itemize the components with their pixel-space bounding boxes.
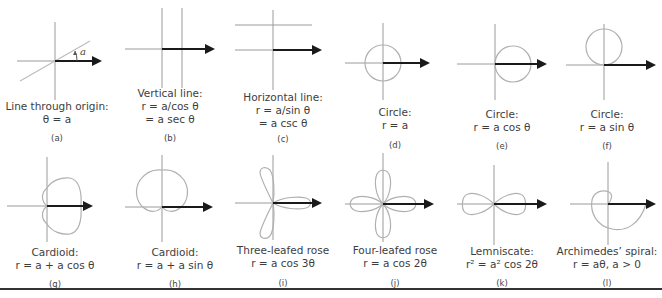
circle-cos-graph [447, 0, 557, 100]
vertical-line-graph [115, 0, 225, 100]
svg-text:a: a [80, 46, 86, 57]
archimedes-spiral-graph [552, 150, 662, 250]
line-through-origin-graph: a [2, 0, 112, 100]
cardioid-cos-graph [0, 150, 110, 250]
circle-r-a-graph [340, 0, 450, 100]
caption: Cardioid: r = a + a cos θ [0, 246, 120, 272]
circle-sin-graph [552, 0, 662, 100]
three-leafed-rose-graph [228, 150, 338, 250]
panel-label: (i) [228, 278, 338, 288]
caption: Vertical line: r = a/cos θ = a sec θ [105, 87, 235, 126]
bottom-rule [0, 288, 662, 290]
panel-label: (d) [340, 140, 450, 150]
lemniscate-graph [447, 150, 557, 250]
panel-label: (c) [228, 134, 338, 144]
caption: Archimedes’ spiral: r = aθ, a > 0 [542, 245, 662, 271]
caption: Circle: r = a sin θ [542, 108, 662, 134]
horizontal-line-graph [228, 0, 338, 100]
panel-label: (k) [447, 278, 557, 288]
panel-label: (j) [340, 278, 450, 288]
cardioid-sin-graph [120, 150, 230, 250]
panel-label: (a) [2, 133, 112, 143]
panel-label: (l) [552, 278, 662, 288]
panel-label: (b) [115, 133, 225, 143]
four-leafed-rose-graph [340, 150, 450, 250]
caption: Line through origin: θ = a [0, 100, 122, 126]
caption: Horizontal line: r = a/sin θ = a csc θ [218, 91, 348, 130]
caption: Three-leafed rose r = a cos 3θ [218, 244, 348, 270]
